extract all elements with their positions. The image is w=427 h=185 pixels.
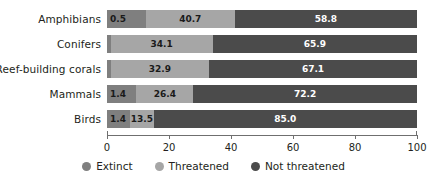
category-label-reef-building-corals: Reef-building corals bbox=[0, 58, 101, 80]
table-row: Mammals 1.4 26.4 72.2 bbox=[0, 83, 427, 108]
bar-reef-building-corals: 32.9 67.1 bbox=[107, 60, 417, 78]
bar-segment-extinct: 1.4 bbox=[107, 85, 136, 103]
legend-label: Not threatened bbox=[265, 160, 345, 172]
legend-swatch-icon bbox=[82, 162, 91, 171]
x-axis-tick bbox=[231, 135, 232, 139]
table-row: Reef-building corals 32.9 67.1 bbox=[0, 58, 427, 83]
bar-birds: 1.4 13.5 85.0 bbox=[107, 110, 417, 128]
x-axis-tick-label: 60 bbox=[287, 142, 300, 153]
legend-item-not-threatened[interactable]: Not threatened bbox=[251, 160, 345, 172]
x-axis-tick-label: 40 bbox=[225, 142, 238, 153]
stacked-bar-chart: Amphibians 0.5 40.7 58.8 Conifers 34.1 6… bbox=[0, 0, 427, 185]
bar-segment-not-threatened: 67.1 bbox=[209, 60, 417, 78]
x-axis-tick bbox=[417, 135, 418, 139]
x-axis-tick-label: 20 bbox=[163, 142, 176, 153]
table-row: Conifers 34.1 65.9 bbox=[0, 33, 427, 58]
bar-segment-not-threatened: 58.8 bbox=[235, 10, 417, 28]
legend-item-extinct[interactable]: Extinct bbox=[82, 160, 132, 172]
x-axis-tick bbox=[169, 135, 170, 139]
bar-segment-threatened: 32.9 bbox=[111, 60, 209, 78]
legend-label: Extinct bbox=[96, 160, 132, 172]
table-row: Birds 1.4 13.5 85.0 bbox=[0, 108, 427, 133]
bar-mammals: 1.4 26.4 72.2 bbox=[107, 85, 417, 103]
x-axis-tick bbox=[107, 135, 108, 139]
bar-segment-not-threatened: 85.0 bbox=[154, 110, 418, 128]
x-axis-tick bbox=[293, 135, 294, 139]
x-axis-tick bbox=[355, 135, 356, 139]
category-label-conifers: Conifers bbox=[0, 33, 101, 55]
category-label-birds: Birds bbox=[0, 108, 101, 130]
legend-item-threatened[interactable]: Threatened bbox=[155, 160, 229, 172]
x-axis: 0 20 40 60 80 100 bbox=[107, 135, 417, 136]
category-label-amphibians: Amphibians bbox=[0, 8, 101, 30]
x-axis-tick-label: 80 bbox=[349, 142, 362, 153]
bar-amphibians: 0.5 40.7 58.8 bbox=[107, 10, 417, 28]
bar-conifers: 34.1 65.9 bbox=[107, 35, 417, 53]
table-row: Amphibians 0.5 40.7 58.8 bbox=[0, 8, 427, 33]
x-axis-tick-label: 0 bbox=[104, 142, 110, 153]
bar-segment-not-threatened: 72.2 bbox=[193, 85, 417, 103]
bar-segment-threatened: 26.4 bbox=[136, 85, 193, 103]
legend-swatch-icon bbox=[155, 162, 164, 171]
legend-swatch-icon bbox=[251, 162, 260, 171]
bar-segment-not-threatened: 65.9 bbox=[213, 35, 417, 53]
x-axis-tick-label: 100 bbox=[407, 142, 426, 153]
category-label-mammals: Mammals bbox=[0, 83, 101, 105]
legend-label: Threatened bbox=[169, 160, 229, 172]
chart-legend: Extinct Threatened Not threatened bbox=[0, 160, 427, 172]
bar-segment-extinct: 1.4 bbox=[107, 110, 130, 128]
bar-segment-threatened: 13.5 bbox=[130, 110, 153, 128]
bar-segment-extinct: 0.5 bbox=[107, 10, 146, 28]
bar-segment-threatened: 34.1 bbox=[111, 35, 213, 53]
bar-segment-threatened: 40.7 bbox=[146, 10, 235, 28]
chart-plot-area: Amphibians 0.5 40.7 58.8 Conifers 34.1 6… bbox=[0, 8, 427, 133]
